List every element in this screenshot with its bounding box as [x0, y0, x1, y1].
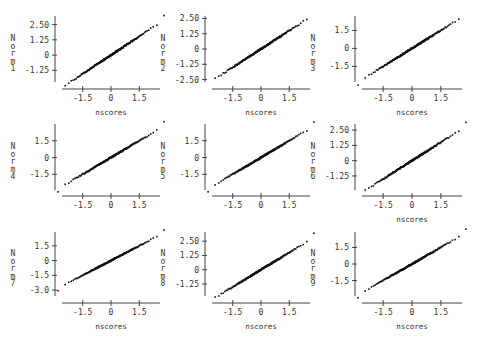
y-tick-label: -1.25 — [175, 280, 199, 289]
y-tick-label: -1.5 — [30, 271, 49, 280]
data-point — [300, 133, 302, 135]
data-point — [64, 85, 66, 87]
y-tick-label: 1.5 — [335, 243, 350, 252]
x-tick-label: -1.5 — [73, 201, 92, 210]
y-tick-label: 1.5 — [185, 137, 200, 146]
data-point — [452, 22, 454, 24]
data-point — [295, 248, 297, 250]
y-axis-label: Norm6 — [311, 142, 316, 181]
data-point — [78, 176, 80, 178]
data-points — [57, 121, 164, 193]
data-point — [146, 241, 148, 243]
qq-panel-4: 1.50-1.5-1.501.5Norm4 — [11, 121, 165, 210]
data-point — [306, 241, 308, 243]
svg-text:4: 4 — [11, 172, 16, 181]
data-point — [235, 65, 237, 67]
data-point — [70, 80, 72, 82]
data-point — [68, 182, 70, 184]
data-point — [443, 28, 445, 30]
data-point — [68, 281, 70, 283]
y-tick-label: -1.5 — [180, 170, 199, 179]
x-tick-label: -1.5 — [223, 308, 242, 317]
qq-panel-3: 1.50-1.5-1.501.5nscoresNorm3 — [311, 16, 462, 117]
y-tick-label: 0 — [194, 266, 199, 275]
y-tick-label: 1.25 — [30, 36, 49, 45]
data-point — [454, 21, 456, 23]
x-tick-label: 0 — [410, 94, 415, 103]
data-point — [150, 27, 152, 29]
data-point — [298, 134, 300, 136]
data-point — [224, 72, 226, 74]
data-point — [224, 291, 226, 293]
x-axis-label: nscores — [245, 108, 277, 117]
data-points — [207, 121, 314, 192]
y-tick-label: 1.5 — [335, 26, 350, 35]
y-axis-label: Norm2 — [161, 34, 166, 73]
x-tick-label: 1.5 — [282, 201, 297, 210]
x-tick-label: 0 — [109, 201, 114, 210]
data-point — [225, 71, 227, 73]
y-tick-label: -1.25 — [25, 66, 49, 75]
data-point — [364, 77, 366, 79]
y-tick-label: 2.50 — [180, 14, 199, 23]
x-tick-label: -1.5 — [223, 94, 242, 103]
data-point — [145, 31, 147, 33]
data-point — [152, 26, 154, 28]
data-point — [458, 236, 460, 238]
x-tick-label: 1.5 — [132, 201, 147, 210]
y-tick-label: 2.50 — [30, 21, 49, 30]
data-point — [150, 239, 152, 241]
data-point — [222, 72, 224, 74]
data-point — [450, 23, 452, 25]
x-tick-label: 1.5 — [282, 94, 297, 103]
qq-panel-6: 2.501.250-1.25-1.501.5nscoresNorm6 — [311, 122, 467, 224]
y-tick-label: 0 — [344, 44, 349, 53]
data-points — [357, 18, 459, 86]
y-axis-label: Norm3 — [311, 34, 316, 73]
data-point — [152, 237, 154, 239]
data-point — [454, 132, 456, 134]
data-point — [74, 278, 76, 280]
data-point — [374, 183, 376, 185]
y-tick-label: 1.25 — [180, 251, 199, 260]
data-point — [454, 239, 456, 241]
data-point — [214, 184, 216, 186]
data-point — [296, 25, 298, 27]
x-tick-label: 0 — [410, 308, 415, 317]
y-axis-label: Norm8 — [161, 249, 166, 288]
data-point — [150, 133, 152, 135]
data-point — [156, 236, 158, 238]
data-point — [220, 181, 222, 183]
y-axis-label: Norm7 — [11, 249, 16, 288]
data-point — [214, 296, 216, 298]
x-axis-label: nscores — [396, 215, 428, 224]
data-point — [68, 82, 70, 84]
data-point — [452, 134, 454, 136]
y-tick-label: -1.25 — [175, 60, 199, 69]
data-point — [296, 135, 298, 137]
y-tick-label: 0 — [194, 45, 199, 54]
data-point — [224, 178, 226, 180]
data-point — [74, 178, 76, 180]
x-axis-label: nscores — [396, 108, 428, 117]
data-point — [273, 41, 275, 43]
y-tick-label: -2.50 — [175, 76, 199, 85]
x-axis-label: nscores — [95, 108, 127, 117]
data-point — [458, 18, 460, 20]
y-axis-label: Norm1 — [11, 34, 16, 73]
y-tick-label: 2.50 — [180, 237, 199, 246]
qq-panel-7: 1.50-1.5-3.0-1.501.5nscoresNorm7 — [11, 229, 165, 331]
data-point — [374, 284, 376, 286]
x-tick-label: 0 — [410, 201, 415, 210]
y-tick-label: 0 — [44, 51, 49, 60]
svg-text:6: 6 — [311, 172, 316, 181]
data-point — [207, 191, 209, 193]
data-point — [57, 191, 59, 193]
x-tick-label: -1.5 — [374, 308, 393, 317]
data-point — [373, 285, 375, 287]
data-point — [373, 185, 375, 187]
data-point — [452, 239, 454, 241]
data-points — [64, 15, 164, 87]
data-point — [64, 284, 66, 286]
data-point — [465, 122, 467, 124]
